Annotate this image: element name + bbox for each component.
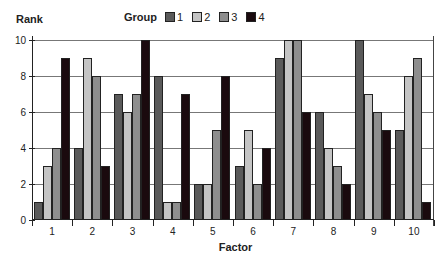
bar-factor-10-group-1: [395, 130, 404, 220]
bar-factor-8-group-1: [315, 112, 324, 220]
legend-item-group-4: 4: [246, 11, 264, 23]
bar-factor-5-group-2: [203, 184, 212, 220]
bar-factor-9-group-3: [373, 112, 382, 220]
x-axis-title: Factor: [0, 241, 443, 253]
bar-factor-10-group-2: [404, 76, 413, 220]
x-tick-label: 9: [354, 226, 394, 237]
bar-factor-4-group-3: [172, 202, 181, 220]
x-tick-label: 1: [32, 226, 72, 237]
x-tick-label: 8: [313, 226, 353, 237]
bar-factor-5-group-3: [212, 130, 221, 220]
legend-item-group-3: 3: [219, 11, 237, 23]
bar-factor-2-group-4: [101, 166, 110, 220]
legend-label: 3: [231, 11, 237, 23]
gridline: [32, 40, 434, 41]
bar-factor-10-group-3: [413, 58, 422, 220]
bar-factor-10-group-4: [422, 202, 431, 220]
x-tick-label: 5: [193, 226, 233, 237]
legend-swatch: [192, 12, 202, 22]
bar-factor-1-group-4: [61, 58, 70, 220]
bar-factor-9-group-2: [364, 94, 373, 220]
bar-factor-3-group-2: [123, 112, 132, 220]
y-tick-label: 4: [10, 143, 26, 154]
y-tick-label: 0: [10, 215, 26, 226]
legend-swatch: [165, 12, 175, 22]
bar-factor-9-group-1: [355, 40, 364, 220]
bar-factor-8-group-4: [342, 184, 351, 220]
x-tick-label: 2: [72, 226, 112, 237]
bar-factor-6-group-3: [253, 184, 262, 220]
bar-factor-4-group-4: [181, 94, 190, 220]
legend-swatch: [219, 12, 229, 22]
legend-label: 1: [177, 11, 183, 23]
x-tick-label: 7: [273, 226, 313, 237]
legend-swatch: [246, 12, 256, 22]
bar-factor-8-group-2: [324, 148, 333, 220]
y-tick-label: 10: [10, 35, 26, 46]
bar-factor-5-group-4: [221, 76, 230, 220]
bar-factor-6-group-2: [244, 130, 253, 220]
y-tick-label: 2: [10, 179, 26, 190]
bar-factor-6-group-4: [262, 148, 271, 220]
x-tick-mark: [434, 220, 435, 226]
y-tick-label: 8: [10, 71, 26, 82]
y-axis-title: Rank: [16, 13, 43, 25]
bar-factor-9-group-4: [382, 130, 391, 220]
x-tick-label: 10: [394, 226, 434, 237]
bar-factor-2-group-1: [74, 148, 83, 220]
legend: Group 1 2 3 4: [124, 11, 270, 23]
bar-factor-2-group-2: [83, 58, 92, 220]
plot-area: 024681012345678910: [32, 40, 434, 220]
bar-factor-1-group-3: [52, 148, 61, 220]
bar-factor-4-group-2: [163, 202, 172, 220]
legend-label: 2: [204, 11, 210, 23]
x-tick-label: 4: [153, 226, 193, 237]
y-axis: [32, 36, 33, 226]
bar-factor-1-group-1: [34, 202, 43, 220]
bar-factor-4-group-1: [154, 76, 163, 220]
bar-factor-3-group-3: [132, 94, 141, 220]
bar-factor-7-group-4: [302, 112, 311, 220]
legend-label: 4: [258, 11, 264, 23]
legend-item-group-1: 1: [165, 11, 183, 23]
bar-factor-5-group-1: [194, 184, 203, 220]
right-axis: [433, 36, 434, 226]
bar-factor-8-group-3: [333, 166, 342, 220]
bar-factor-6-group-1: [235, 166, 244, 220]
bar-factor-3-group-1: [114, 94, 123, 220]
bar-factor-2-group-3: [92, 76, 101, 220]
bar-factor-1-group-2: [43, 166, 52, 220]
x-tick-label: 3: [112, 226, 152, 237]
y-tick-label: 6: [10, 107, 26, 118]
bar-factor-3-group-4: [141, 40, 150, 220]
bar-factor-7-group-1: [275, 58, 284, 220]
bar-factor-7-group-2: [284, 40, 293, 220]
legend-title: Group: [124, 11, 157, 23]
bar-factor-7-group-3: [293, 40, 302, 220]
x-tick-label: 6: [233, 226, 273, 237]
legend-item-group-2: 2: [192, 11, 210, 23]
